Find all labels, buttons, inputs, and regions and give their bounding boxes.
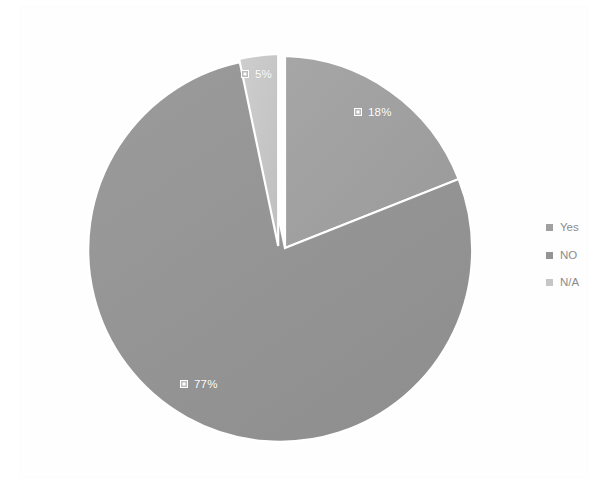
legend-swatch-icon (546, 252, 553, 259)
pie-data-label-no: 77% (180, 378, 218, 390)
pie-chart-graphic (0, 0, 611, 500)
legend-swatch-icon (546, 279, 553, 286)
pie-data-label-text: 18% (368, 106, 392, 118)
legend-item-no[interactable]: NO (546, 250, 579, 262)
legend-item-label: N/A (560, 277, 579, 289)
legend-swatch-icon (546, 224, 553, 231)
pie-data-label-yes: 18% (354, 106, 392, 118)
pie-data-label-text: 77% (194, 378, 218, 390)
data-label-marker-icon (180, 380, 188, 388)
legend-item-label: NO (560, 250, 577, 262)
chart-legend: Yes NO N/A (546, 222, 579, 289)
legend-item-na[interactable]: N/A (546, 277, 579, 289)
pie-data-label-na: 5% (241, 68, 272, 80)
legend-item-yes[interactable]: Yes (546, 222, 579, 234)
data-label-marker-icon (354, 108, 362, 116)
chart-canvas: 18% 5% 77% Yes NO N/A (0, 0, 611, 500)
pie-data-label-text: 5% (255, 68, 272, 80)
legend-item-label: Yes (560, 222, 579, 234)
data-label-marker-icon (241, 70, 249, 78)
